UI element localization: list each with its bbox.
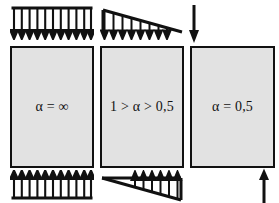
block-alpha-infinite: α = ∞ [10,46,94,168]
stress-block-figure: α = ∞ [0,0,279,203]
point-load-top-block3-svg [185,4,203,44]
block-alpha-between: 1 > α > 0,5 [100,46,184,168]
point-load-bottom-block3-svg [255,168,273,203]
point-load-top-block3 [185,4,203,44]
triangular-load-bottom-block2-svg [100,170,184,202]
triangular-load-top-block2 [100,8,184,40]
block-alpha-between-label: 1 > α > 0,5 [102,99,182,115]
block-alpha-half: α = 0,5 [190,46,275,168]
triangular-load-top-block2-svg [100,8,184,40]
uniform-load-bottom-block1-svg [10,170,94,200]
block-alpha-half-label: α = 0,5 [192,99,273,115]
uniform-load-top-block1-svg [10,6,94,40]
uniform-load-top-block1 [10,6,94,40]
triangular-load-bottom-block2 [100,170,184,202]
block-alpha-infinite-label: α = ∞ [12,99,92,115]
point-load-bottom-block3 [255,168,273,203]
uniform-load-bottom-block1 [10,170,94,200]
